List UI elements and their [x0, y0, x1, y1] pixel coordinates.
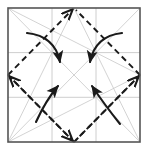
crease-pattern-canvas	[0, 0, 148, 151]
origami-crease-pattern-figure	[0, 0, 148, 151]
